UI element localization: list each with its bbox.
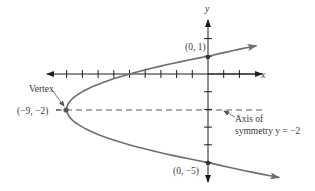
parabola-diagram: x y (0, 1) (0, −5) (−9, −2) Vertex Axis …	[0, 0, 315, 191]
point-0-neg5	[206, 161, 211, 166]
vertex-coord-label: (−9, −2)	[17, 106, 48, 117]
point-0-1	[206, 55, 211, 60]
y-axis-label: y	[204, 3, 210, 14]
axis-of-symmetry-label-line2: symmetry y = −2	[235, 126, 301, 136]
x-axis-label: x	[260, 69, 266, 80]
vertex-point	[63, 107, 68, 112]
parabola-upper-branch	[67, 46, 257, 110]
vertex-label: Vertex	[29, 84, 54, 94]
axis-pointer-arrow	[224, 111, 235, 117]
axis-of-symmetry-label-line1: Axis of	[235, 114, 264, 124]
vertex-pointer-arrow	[52, 90, 64, 106]
point-label-0-1: (0, 1)	[185, 42, 206, 53]
point-label-0-neg5: (0, −5)	[173, 166, 199, 177]
